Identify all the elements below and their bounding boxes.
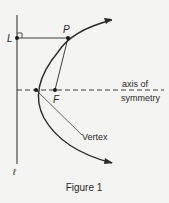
label-l: L bbox=[7, 33, 13, 44]
segment-pf bbox=[55, 38, 68, 90]
focus-dot bbox=[53, 88, 57, 92]
parabola-diagram: L P F axis of symmetry Vertex ℓ Figure 1 bbox=[0, 0, 169, 203]
label-directrix: ℓ bbox=[12, 167, 16, 177]
vertex-dot bbox=[34, 88, 38, 92]
label-vertex: Vertex bbox=[82, 132, 108, 142]
label-p: P bbox=[63, 24, 70, 35]
point-p-dot bbox=[66, 36, 70, 40]
point-l-dot bbox=[15, 36, 19, 40]
label-axis-line1: axis of bbox=[122, 79, 149, 89]
arrow-down-icon bbox=[104, 158, 113, 164]
label-axis-line2: symmetry bbox=[121, 93, 160, 103]
figure-caption: Figure 1 bbox=[66, 182, 103, 193]
label-f: F bbox=[53, 94, 60, 105]
